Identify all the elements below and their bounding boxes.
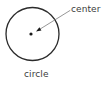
label-center: center (71, 4, 101, 14)
label-circle: circle (24, 69, 49, 79)
center-point-dot (29, 32, 32, 35)
circle-diagram: center circle (0, 0, 104, 88)
